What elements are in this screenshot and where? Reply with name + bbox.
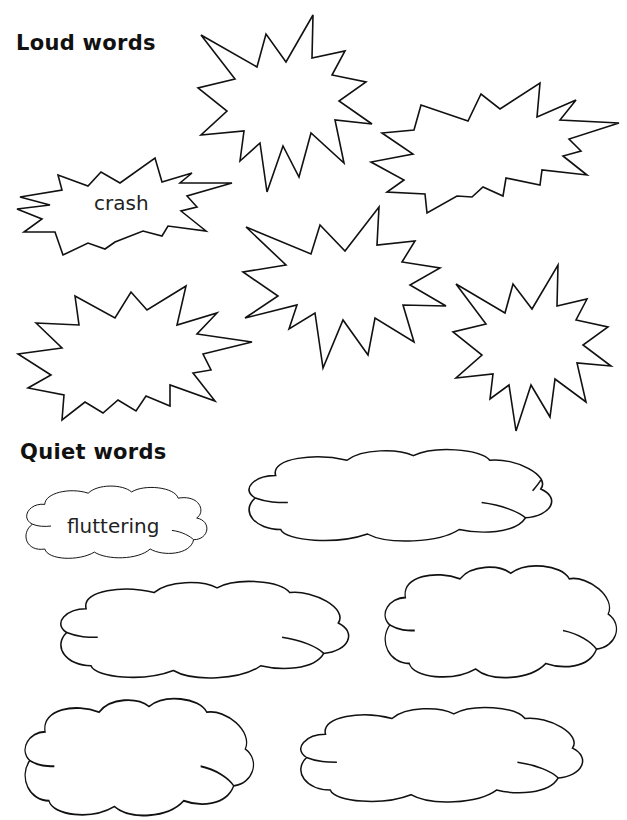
starburst-icon[interactable] [371, 83, 619, 213]
starburst-icon[interactable] [243, 207, 446, 368]
cloud-icon[interactable] [249, 450, 552, 541]
starburst-icon[interactable] [18, 286, 252, 420]
worksheet-shapes [0, 0, 627, 820]
starburst-icon[interactable] [198, 15, 372, 192]
example-word-crash: crash [94, 191, 149, 215]
example-word-fluttering: fluttering [67, 514, 159, 538]
cloud-icon[interactable] [61, 581, 349, 677]
cloud-icon[interactable] [25, 699, 253, 816]
cloud-icon[interactable] [385, 566, 616, 678]
starburst-icon[interactable] [453, 265, 611, 431]
cloud-icon[interactable] [301, 708, 583, 802]
